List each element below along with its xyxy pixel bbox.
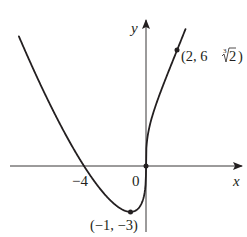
origin-point (144, 164, 149, 169)
function-curve (19, 29, 186, 212)
minimum-point (128, 210, 133, 215)
svg-text:): ) (238, 48, 243, 65)
point-2-label: (2, 6 3 2 ) (181, 47, 243, 65)
x-axis-label: x (232, 173, 240, 189)
svg-text:2: 2 (229, 48, 236, 64)
minimum-point-label: (−1, −3) (90, 217, 138, 234)
svg-text:3: 3 (223, 47, 227, 55)
point-2 (175, 48, 180, 53)
svg-text:(2, 6: (2, 6 (181, 48, 208, 65)
y-axis-label: y (129, 20, 138, 36)
origin-label: 0 (132, 173, 140, 189)
tick-label-neg4: −4 (72, 173, 88, 189)
function-graph: y x −4 0 (−1, −3) (2, 6 3 2 ) (0, 0, 247, 237)
graph-svg: y x −4 0 (−1, −3) (2, 6 3 2 ) (0, 0, 247, 237)
